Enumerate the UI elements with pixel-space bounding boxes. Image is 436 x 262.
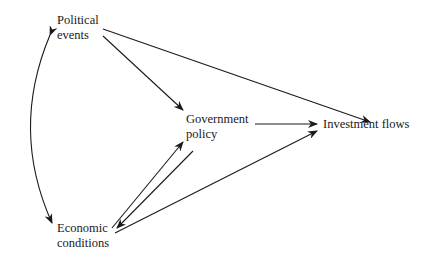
node-label-line1: Economic bbox=[57, 221, 109, 236]
node-investment-flows: Investment flows bbox=[323, 117, 409, 132]
edge-political-to-government bbox=[103, 36, 183, 110]
node-government-policy: Government policy bbox=[186, 112, 248, 142]
edge-political-economic-bidirectional bbox=[30, 35, 52, 223]
edge-political-to-investment bbox=[103, 29, 370, 122]
node-label-line1: Government bbox=[186, 112, 248, 127]
node-political-events: Political events bbox=[57, 13, 99, 43]
path-diagram: Political events Government policy Inves… bbox=[0, 0, 436, 262]
edge-economic-to-investment bbox=[115, 131, 317, 233]
node-label-line2: conditions bbox=[57, 236, 109, 251]
edge-economic-to-government bbox=[112, 142, 183, 228]
edge-government-to-economic bbox=[117, 151, 193, 228]
node-label-line2: events bbox=[57, 28, 99, 43]
node-label-line2: policy bbox=[186, 127, 248, 142]
node-label: Investment flows bbox=[323, 117, 409, 132]
node-economic-conditions: Economic conditions bbox=[57, 221, 109, 251]
node-label-line1: Political bbox=[57, 13, 99, 28]
